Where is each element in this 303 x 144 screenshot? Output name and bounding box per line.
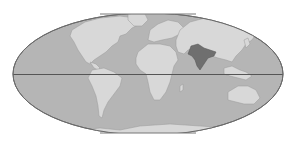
world-map [0, 0, 303, 144]
world-map-svg [0, 0, 303, 144]
new-zealand [268, 102, 272, 110]
